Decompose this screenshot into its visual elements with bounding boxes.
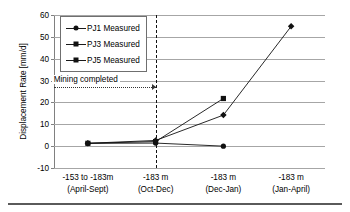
x-axis-label-3: -183 m(Jan-April) — [257, 172, 325, 200]
x-axis-label-3-period: (Jan-April) — [257, 184, 325, 196]
gridline--10 — [54, 168, 325, 169]
y-tick-label-30: 30 — [40, 76, 49, 85]
y-tick-label-50: 50 — [40, 32, 49, 41]
data-point-pj5-1 — [153, 139, 158, 144]
legend-label-pj3: PJ3 Measured — [87, 40, 140, 49]
x-axis-label-3-depth: -183 m — [257, 172, 325, 184]
chart-figure: Displacement Rate [mm/d] -10010203040506… — [0, 0, 350, 212]
data-point-pj1-2 — [221, 144, 226, 149]
data-point-pj5-0 — [85, 141, 90, 146]
legend-square-marker-icon — [65, 52, 87, 68]
legend-item-pj5[interactable]: PJ5 Measured — [65, 52, 140, 68]
legend-label-pj5: PJ5 Measured — [87, 56, 140, 65]
x-axis-label-1-depth: -183 m — [122, 172, 190, 184]
y-tick-label-40: 40 — [40, 54, 49, 63]
legend-label-pj1: PJ1 Measured — [87, 24, 140, 33]
x-axis-label-0: -153 to -183m(April-Sept) — [54, 172, 122, 200]
bottom-rule — [8, 203, 342, 205]
legend-item-pj3[interactable]: PJ3 Measured — [65, 36, 140, 52]
y-tick-label--10: -10 — [37, 164, 49, 173]
series-line-pj5 — [88, 98, 224, 143]
data-point-pj5-2 — [221, 96, 226, 101]
y-tick-label-60: 60 — [40, 11, 49, 20]
legend-item-pj1[interactable]: PJ1 Measured — [65, 20, 140, 36]
x-axis-label-2-depth: -183 m — [190, 172, 258, 184]
x-axis-label-1-period: (Oct-Dec) — [122, 184, 190, 196]
legend-diamond-marker-icon — [65, 36, 87, 52]
y-tick-label-0: 0 — [44, 142, 49, 151]
x-axis-labels-group: -153 to -183m(April-Sept)-183 m(Oct-Dec)… — [54, 172, 325, 200]
x-axis-label-2: -183 m(Dec-Jan) — [190, 172, 258, 200]
y-axis-title: Displacement Rate [mm/d] — [19, 12, 28, 172]
y-tick-label-10: 10 — [40, 120, 49, 129]
x-axis-label-0-depth: -153 to -183m — [54, 172, 122, 184]
y-tick-label-20: 20 — [40, 98, 49, 107]
legend-circle-marker-icon — [65, 20, 87, 36]
x-axis-label-0-period: (April-Sept) — [54, 184, 122, 196]
y-tick-mark--10 — [51, 168, 54, 169]
x-axis-label-1: -183 m(Oct-Dec) — [122, 172, 190, 200]
x-axis-label-2-period: (Dec-Jan) — [190, 184, 258, 196]
chart-legend: PJ1 Measured PJ3 Measured PJ5 Measured — [60, 16, 147, 72]
